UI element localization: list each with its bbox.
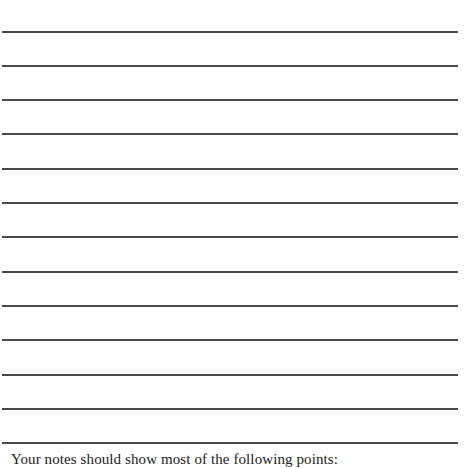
writing-line-5 bbox=[2, 168, 458, 170]
writing-line-2 bbox=[2, 65, 458, 67]
writing-line-6 bbox=[2, 202, 458, 204]
writing-line-11 bbox=[2, 374, 458, 376]
writing-line-1 bbox=[2, 31, 458, 33]
writing-line-7 bbox=[2, 236, 458, 238]
writing-line-13 bbox=[2, 442, 458, 444]
writing-line-4 bbox=[2, 133, 458, 135]
writing-line-10 bbox=[2, 339, 458, 341]
writing-line-8 bbox=[2, 271, 458, 273]
writing-line-12 bbox=[2, 408, 458, 410]
writing-line-9 bbox=[2, 305, 458, 307]
notes-instruction-caption: Your notes should show most of the follo… bbox=[11, 450, 338, 468]
writing-line-3 bbox=[2, 99, 458, 101]
